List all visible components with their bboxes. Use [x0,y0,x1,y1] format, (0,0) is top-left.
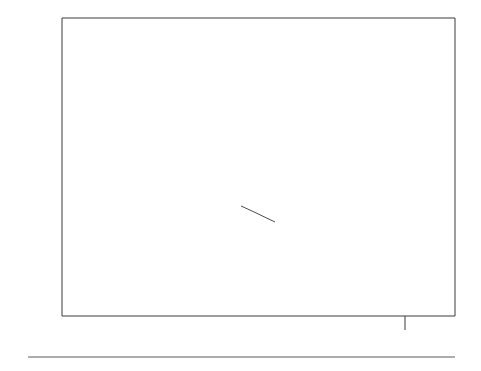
chart-background [0,0,481,371]
area-chart-svg [0,0,481,371]
chart-figure [0,0,481,371]
